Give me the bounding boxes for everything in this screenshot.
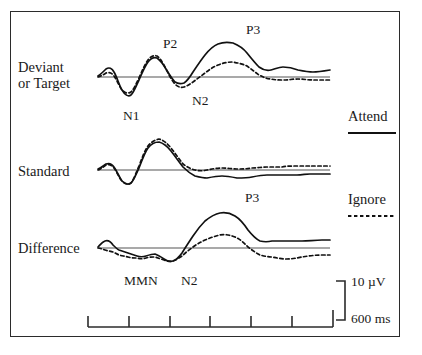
scale-label-amplitude: 10 µV: [351, 274, 385, 289]
peak-label-n2-top: N2: [192, 93, 209, 108]
peak-label-n2-bottom: N2: [181, 273, 198, 288]
row-label-deviant-line1: Deviant: [18, 59, 70, 75]
amplitude-scale-bar: [336, 281, 345, 320]
scale-label-time: 600 ms: [351, 311, 390, 326]
peak-label-p3-bottom: P3: [245, 190, 259, 205]
peak-label-p2: P2: [163, 36, 177, 51]
peak-label-n1: N1: [123, 108, 140, 123]
legend-label-attend: Attend: [348, 108, 387, 124]
row-label-difference-line1: Difference: [18, 240, 80, 256]
legend-label-ignore: Ignore: [348, 191, 386, 207]
row-label-standard: Standard: [18, 163, 70, 179]
peak-label-p3-top: P3: [246, 22, 260, 37]
trace-standard-attend: [98, 142, 330, 184]
row-label-deviant-or-target: Deviant or Target: [18, 59, 70, 91]
row-label-standard-line1: Standard: [18, 163, 70, 179]
row-label-deviant-line2: or Target: [18, 75, 70, 91]
row-label-difference: Difference: [18, 240, 80, 256]
erp-figure: Deviant or Target Standard Difference P2…: [0, 0, 422, 355]
trace-deviant-ignore: [98, 56, 330, 93]
trace-deviant-attend: [98, 42, 330, 95]
peak-label-mmn: MMN: [124, 273, 158, 288]
